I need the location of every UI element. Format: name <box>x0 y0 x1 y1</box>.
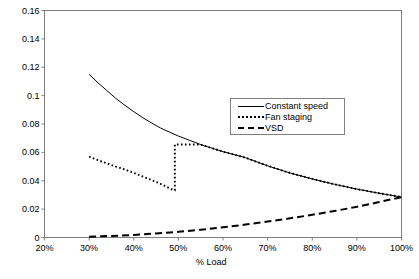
series-line-vsd <box>89 197 401 237</box>
legend-item-fan-staging: Fan staging <box>237 112 344 123</box>
x-tick-label: 20% <box>25 243 65 253</box>
x-tick-label: 70% <box>248 243 288 253</box>
y-tick-label: 0.14 <box>6 34 40 44</box>
legend-item-constant-speed: Constant speed <box>237 101 344 112</box>
legend-item-vsd: VSD <box>237 123 344 134</box>
y-tick-label: 0 <box>6 233 40 243</box>
legend-line-solid-icon <box>237 101 265 112</box>
y-tick-label: 0.1 <box>6 91 40 101</box>
axes <box>42 11 402 241</box>
x-axis-title: % Load <box>196 257 227 267</box>
x-tick-label: 40% <box>114 243 154 253</box>
x-tick-label: 90% <box>337 243 377 253</box>
chart-container: 00.020.040.060.080.10.120.140.16 20%30%4… <box>0 0 419 279</box>
legend-line-dashed-icon <box>237 123 265 134</box>
legend-line-dotted-icon <box>237 112 265 123</box>
legend-label: Constant speed <box>265 101 328 112</box>
legend-label: VSD <box>265 123 284 134</box>
x-tick-label: 50% <box>158 243 198 253</box>
legend-label: Fan staging <box>265 112 312 123</box>
chart-legend: Constant speed Fan staging VSD <box>230 98 345 135</box>
y-tick-label: 0.04 <box>6 176 40 186</box>
y-tick-label: 0.02 <box>6 204 40 214</box>
series-line-constant-speed <box>89 74 401 197</box>
y-tick-label: 0.08 <box>6 119 40 129</box>
chart-plot-area <box>0 0 419 279</box>
plot-frame <box>45 11 402 238</box>
x-tick-label: 80% <box>292 243 332 253</box>
x-tick-label: 100% <box>382 243 419 253</box>
y-tick-label: 0.12 <box>6 62 40 72</box>
y-tick-label: 0.16 <box>6 6 40 16</box>
series-line-fan-staging <box>89 145 401 198</box>
x-tick-label: 30% <box>69 243 109 253</box>
x-tick-label: 60% <box>203 243 243 253</box>
y-tick-label: 0.06 <box>6 147 40 157</box>
